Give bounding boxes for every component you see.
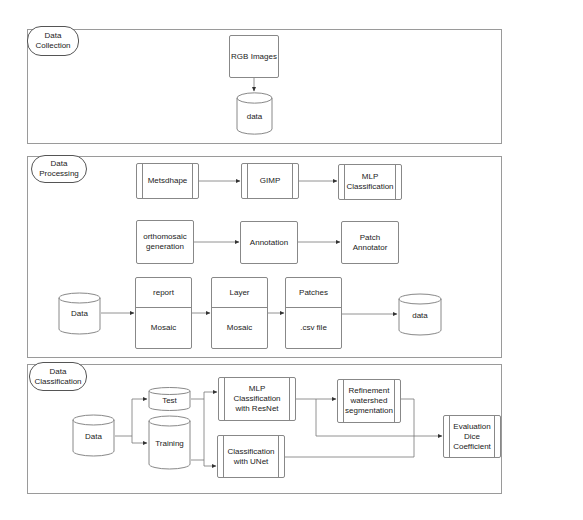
node-patch-annotator: Patch Annotator xyxy=(341,221,399,264)
node-data-input: Data xyxy=(58,292,101,335)
section-label-data-classification: Data Classification xyxy=(29,362,87,391)
node-report-label: report xyxy=(136,278,191,308)
node-label: Training xyxy=(148,439,191,448)
node-evaluation-dice: Evaluation Dice Coefficient xyxy=(443,415,501,458)
node-label: Data xyxy=(58,309,101,318)
node-mlp-classification: MLP Classification xyxy=(338,164,402,200)
node-metashape: Metsdhape xyxy=(136,163,199,199)
section-label-data-collection: Data Collection xyxy=(27,26,79,56)
node-label: Data xyxy=(72,432,115,441)
node-data-store-collection: data xyxy=(236,92,273,135)
node-patches-csv: Patches .csv file xyxy=(285,277,342,349)
node-label: data xyxy=(236,112,273,121)
node-layer-mosaic: Layer Mosaic xyxy=(211,277,268,349)
node-report-mosaic: report Mosaic xyxy=(135,277,192,349)
section-label-data-processing: Data Processing xyxy=(31,155,87,183)
node-layer-label: Layer xyxy=(212,278,267,308)
node-unet: Classification with UNet xyxy=(217,435,285,478)
node-training: Training xyxy=(148,415,191,470)
node-rgb-images: RGB Images xyxy=(229,35,279,78)
node-gimp: GIMP xyxy=(241,163,299,199)
node-data-output: data xyxy=(398,293,442,336)
node-mosaic-label: Mosaic xyxy=(212,307,267,348)
node-label: Test xyxy=(148,396,191,405)
node-refinement-watershed: Refinement watershed segmentation xyxy=(337,379,401,423)
node-data-classification-input: Data xyxy=(72,414,115,457)
node-test: Test xyxy=(148,387,191,411)
node-patches-label: Patches xyxy=(286,278,341,308)
node-mosaic-label: Mosaic xyxy=(136,307,191,348)
node-label: data xyxy=(398,311,442,320)
node-orthomosaic-generation: orthomosaic generation xyxy=(136,220,194,264)
node-mlp-resnet: MLP Classification with ResNet xyxy=(218,377,296,421)
node-annotation: Annotation xyxy=(240,221,298,264)
node-csv-file-label: .csv file xyxy=(286,307,341,348)
